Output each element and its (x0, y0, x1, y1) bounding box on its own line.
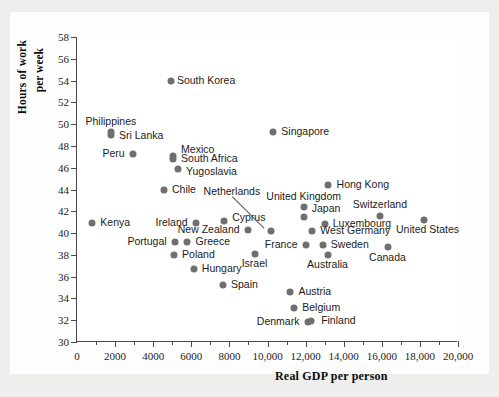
data-point[interactable] (270, 128, 277, 135)
data-point-label: Spain (231, 280, 258, 292)
data-point[interactable] (325, 182, 332, 189)
data-point-label: West Germany (320, 225, 390, 237)
x-tick-minor (287, 341, 288, 345)
x-tick-label: 12,000 (290, 350, 320, 362)
data-point[interactable] (170, 156, 177, 163)
data-point-label: Canada (369, 252, 406, 264)
data-point[interactable] (302, 242, 309, 249)
y-tick (71, 168, 77, 169)
y-tick (71, 277, 77, 278)
y-axis-title-line2: per week (33, 48, 47, 92)
x-tick-minor (439, 341, 440, 345)
data-point[interactable] (384, 244, 391, 251)
data-point-label: Chile (172, 184, 196, 196)
y-tick (71, 320, 77, 321)
data-point[interactable] (300, 203, 307, 210)
data-point[interactable] (244, 226, 251, 233)
y-tick (71, 59, 77, 60)
y-tick (71, 233, 77, 234)
x-tick (153, 341, 154, 347)
y-tick-label: 38 (58, 249, 69, 261)
data-point-label: Finland (321, 316, 355, 328)
data-point-label: Switzerland (353, 199, 407, 211)
data-point-label: United Kingdom (266, 191, 341, 203)
x-tick (229, 341, 230, 347)
y-tick (71, 146, 77, 147)
x-tick-minor (401, 341, 402, 345)
y-tick (71, 342, 77, 343)
y-tick-label: 36 (58, 271, 69, 283)
data-point[interactable] (291, 305, 298, 312)
y-tick-label: 54 (58, 75, 69, 87)
data-point[interactable] (129, 150, 136, 157)
data-point[interactable] (268, 227, 275, 234)
data-point[interactable] (107, 132, 114, 139)
data-point[interactable] (219, 282, 226, 289)
data-point[interactable] (167, 77, 174, 84)
x-tick-minor (248, 341, 249, 345)
data-point-label: Japan (312, 203, 341, 215)
data-point[interactable] (171, 238, 178, 245)
data-point-label: South Africa (181, 153, 238, 165)
x-tick-label: 8000 (218, 350, 240, 362)
data-point-label: Portugal (128, 236, 167, 248)
x-tick-label: 2000 (104, 350, 126, 362)
data-point[interactable] (174, 165, 181, 172)
data-point-label: Peru (103, 148, 125, 160)
y-tick-label: 32 (58, 314, 69, 326)
data-point-label: Greece (196, 236, 230, 248)
y-tick (71, 37, 77, 38)
data-point[interactable] (308, 318, 315, 325)
x-tick-label: 6000 (180, 350, 202, 362)
data-point[interactable] (160, 186, 167, 193)
data-point-label: Israel (242, 258, 268, 270)
y-tick-label: 34 (58, 292, 69, 304)
data-point[interactable] (300, 213, 307, 220)
x-tick-minor (325, 341, 326, 345)
data-point-label: France (265, 239, 298, 251)
data-point[interactable] (309, 227, 316, 234)
data-point-label: Philippines (86, 116, 137, 128)
data-point[interactable] (287, 288, 294, 295)
x-tick (344, 341, 345, 347)
y-tick (71, 255, 77, 256)
x-tick (268, 341, 269, 347)
y-tick (71, 298, 77, 299)
x-tick-minor (210, 341, 211, 345)
data-point[interactable] (184, 238, 191, 245)
y-tick-label: 50 (58, 118, 69, 130)
x-tick-label: 14,000 (329, 350, 359, 362)
x-tick-minor (96, 341, 97, 345)
y-axis-title-line1: Hours of work (16, 40, 30, 114)
data-point-label: Netherlands (204, 186, 261, 198)
y-tick (71, 190, 77, 191)
x-tick-label: 20,000 (443, 350, 473, 362)
x-tick-label: 16,000 (367, 350, 397, 362)
y-tick-label: 56 (58, 53, 69, 65)
y-tick (71, 81, 77, 82)
y-tick-label: 58 (58, 31, 69, 43)
y-tick-label: 44 (58, 184, 69, 196)
data-point-label: Yugoslavia (186, 166, 237, 178)
x-tick (420, 341, 421, 347)
data-point[interactable] (190, 266, 197, 273)
x-tick-minor (172, 341, 173, 345)
data-point-label: Sweden (331, 239, 369, 251)
y-tick-label: 42 (58, 205, 69, 217)
data-point-label: Denmark (257, 317, 300, 329)
x-tick-label: 18,000 (405, 350, 435, 362)
data-point-label: South Korea (177, 75, 235, 87)
data-point[interactable] (170, 251, 177, 258)
data-point-label: United States (396, 224, 459, 236)
x-tick (306, 341, 307, 347)
y-tick-label: 30 (58, 336, 69, 348)
data-point[interactable] (319, 242, 326, 249)
x-tick-label: 10,000 (252, 350, 282, 362)
data-point-label: Australia (307, 259, 348, 271)
x-tick (191, 341, 192, 347)
data-point-label: Poland (182, 249, 215, 261)
data-point-label: Austria (298, 286, 331, 298)
plot-area: 3032343638404244464850525456580200040006… (76, 37, 457, 342)
x-axis-title: Real GDP per person (275, 369, 388, 384)
data-point[interactable] (89, 220, 96, 227)
